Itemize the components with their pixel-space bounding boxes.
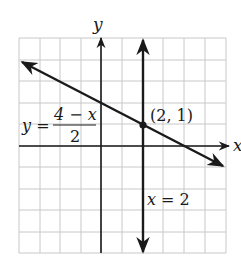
eq2-x: x <box>147 190 156 209</box>
eq2-rest: = 2 <box>156 190 190 209</box>
eq1-numerator: 4 − x <box>53 105 97 124</box>
x-axis-label: x <box>233 135 241 155</box>
equation-2-label: x = 2 <box>147 190 190 209</box>
graph: y x (2, 1) y = 4 − x 2 x = 2 <box>0 0 241 266</box>
point-label: (2, 1) <box>150 106 193 125</box>
eq1-lhs: y = <box>21 116 50 135</box>
equation-1-label: y = 4 − x 2 <box>20 104 98 146</box>
eq1-denominator: 2 <box>70 127 80 146</box>
y-axis-label: y <box>92 14 103 34</box>
intersection-point <box>139 121 146 128</box>
